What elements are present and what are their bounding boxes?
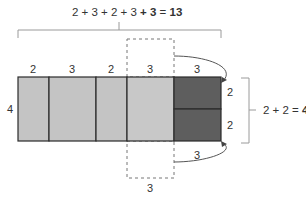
height-label: 4 [7,104,13,115]
light-columns [18,77,174,141]
top-bracket [18,22,221,38]
column-label-2: 3 [69,64,75,75]
column-label-5: 3 [194,64,200,75]
column-label-1: 2 [30,64,36,75]
column-label-3: 2 [108,64,114,75]
top-equation: 2 + 3 + 2 + 3 + 3 = 13 [72,7,182,19]
right-equation: 2 + 2 = 4 [263,105,306,117]
dark-block-label-top: 2 [227,87,233,98]
dark-block [174,77,221,141]
arrow-bottom-curve [174,144,226,162]
arrow-top-head [221,77,227,83]
column-label-4: 3 [147,64,153,75]
area-model-diagram: 2 + 3 + 2 + 3 + 3 = 13 2 3 2 3 3 4 2 2 2… [0,0,306,198]
dark-block-label-bottom: 2 [227,120,233,131]
dashed-width-label: 3 [147,183,153,194]
moved-width-label: 3 [194,150,200,161]
right-bracket [241,78,256,143]
diagram-graphics [0,0,306,198]
dashed-moved-region-bottom [127,141,174,178]
